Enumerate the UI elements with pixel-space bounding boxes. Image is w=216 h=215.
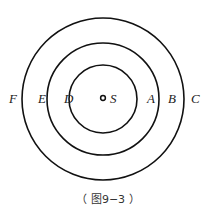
label-c: C [191,91,200,106]
label-e: E [37,91,46,106]
figure-caption: （ 图9−3 ） [0,190,216,206]
label-b: B [168,91,176,106]
label-s: S [110,91,117,106]
label-a: A [146,91,155,106]
inner-circle [69,65,137,133]
center-point [101,96,106,101]
label-d: D [63,91,74,106]
concentric-circles-diagram: S F E D A B C [0,0,216,215]
label-f: F [8,91,18,106]
